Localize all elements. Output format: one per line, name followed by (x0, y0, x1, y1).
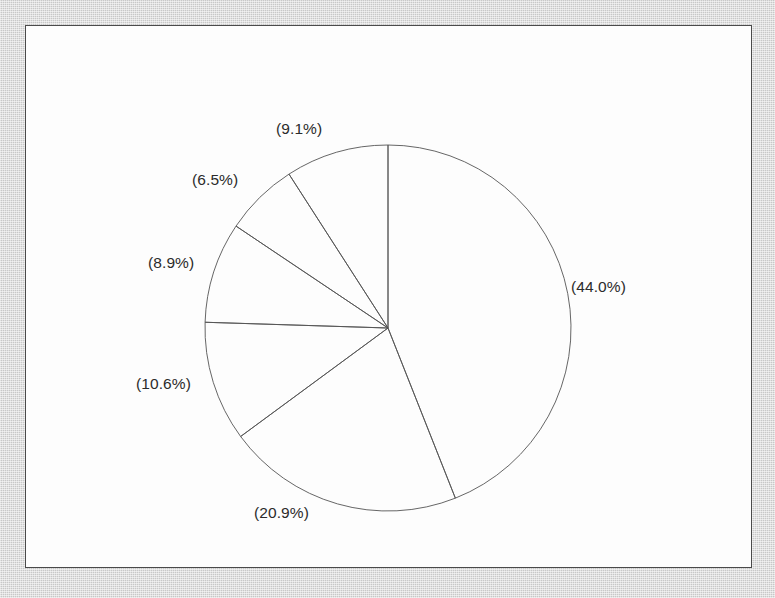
pie-slice (236, 174, 388, 328)
page-background: (44.0%) (20.9%) (10.6%) (8.9%) (6.5%) (9… (0, 0, 775, 598)
pie-slice (205, 322, 388, 436)
slice-label-4: (8.9%) (148, 254, 194, 272)
pie-slice (388, 145, 571, 498)
slice-label-3: (10.6%) (136, 375, 191, 393)
pie-slice (241, 328, 456, 511)
pie-slice (289, 145, 388, 328)
slice-label-1: (44.0%) (571, 278, 626, 296)
slice-label-6: (9.1%) (276, 120, 322, 138)
chart-paper-panel: (44.0%) (20.9%) (10.6%) (8.9%) (6.5%) (9… (25, 25, 752, 568)
slice-label-2: (20.9%) (254, 504, 309, 522)
pie-chart-figure: (44.0%) (20.9%) (10.6%) (8.9%) (6.5%) (9… (26, 26, 751, 567)
pie-chart-svg (26, 26, 752, 568)
slice-label-5: (6.5%) (192, 171, 238, 189)
pie-slice (205, 226, 388, 328)
pie-slices-group (205, 145, 571, 511)
